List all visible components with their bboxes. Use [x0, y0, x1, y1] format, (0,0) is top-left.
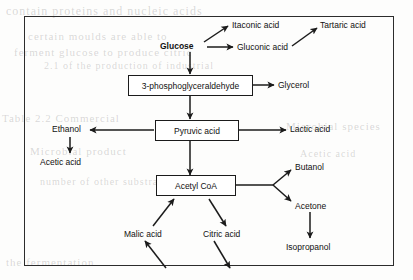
node-lactic-acid[interactable]: Lactic acid: [290, 124, 330, 134]
node-pyruvic-acid[interactable]: Pyruvic acid: [155, 120, 239, 141]
node-itaconic-acid[interactable]: Itaconic acid: [232, 20, 279, 30]
node-acetic-acid[interactable]: Acetic acid: [40, 157, 81, 167]
node-tartaric-acid[interactable]: Tartaric acid: [320, 20, 366, 30]
node-gluconic-acid[interactable]: Gluconic acid: [237, 42, 288, 52]
node-isopropanol[interactable]: Isopropanol: [286, 242, 330, 252]
node-citric-acid[interactable]: Citric acid: [203, 229, 240, 239]
node-glycerol[interactable]: Glycerol: [278, 80, 309, 90]
node-malic-acid[interactable]: Malic acid: [124, 229, 162, 239]
node-glucose[interactable]: Glucose: [160, 41, 194, 51]
figure-page: contain proteins and nucleic acids certa…: [0, 0, 413, 280]
node-butanol[interactable]: Butanol: [295, 162, 324, 172]
node-acetone[interactable]: Acetone: [295, 201, 326, 211]
node-acetyl-coa[interactable]: Acetyl CoA: [156, 175, 236, 196]
node-3-phosphoglyceraldehyde[interactable]: 3-phosphoglyceraldehyde: [128, 75, 253, 96]
node-ethanol[interactable]: Ethanol: [52, 124, 81, 134]
